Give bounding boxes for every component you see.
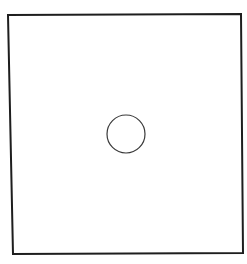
background [0, 0, 247, 264]
diagram-canvas [0, 0, 247, 264]
